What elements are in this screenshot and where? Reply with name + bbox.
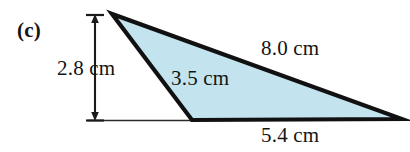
triangle-shape xyxy=(112,14,402,120)
left-side-length-label: 3.5 cm xyxy=(171,68,229,89)
height-dimension-label: 2.8 cm xyxy=(57,58,115,79)
top-side-length-label: 8.0 cm xyxy=(261,38,319,59)
base-length-label: 5.4 cm xyxy=(261,125,319,146)
part-label: (c) xyxy=(17,20,41,41)
geometry-figure: (c) 2.8 cm 3.5 cm 8.0 cm 5.4 cm xyxy=(0,0,410,152)
